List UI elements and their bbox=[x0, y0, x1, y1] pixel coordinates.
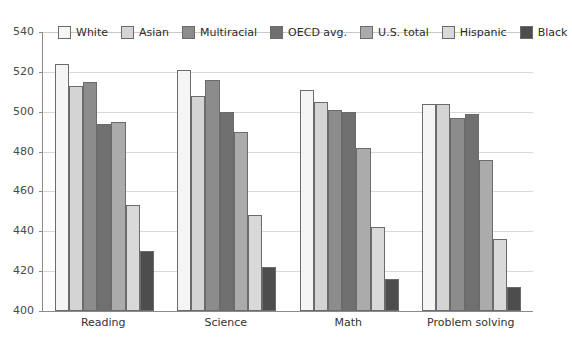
bar bbox=[479, 160, 493, 311]
bar bbox=[205, 80, 219, 311]
bar bbox=[97, 124, 111, 311]
bar bbox=[234, 132, 248, 311]
y-tick-mark-400 bbox=[39, 311, 43, 312]
bar bbox=[356, 148, 370, 311]
legend-swatch-icon bbox=[182, 26, 195, 39]
bar-group bbox=[288, 32, 411, 311]
legend-label: U.S. total bbox=[378, 27, 429, 38]
bar bbox=[126, 205, 140, 311]
bar-group bbox=[43, 32, 166, 311]
legend-swatch-icon bbox=[121, 26, 134, 39]
y-tick-label-440: 440 bbox=[13, 225, 34, 236]
legend-swatch-icon bbox=[520, 26, 533, 39]
legend-item[interactable]: Asian bbox=[121, 26, 169, 39]
bar bbox=[493, 239, 507, 311]
x-axis-label: Math bbox=[287, 317, 410, 328]
y-tick-label-500: 500 bbox=[13, 106, 34, 117]
bar bbox=[55, 64, 69, 311]
legend-item[interactable]: Hispanic bbox=[442, 26, 507, 39]
bar bbox=[314, 102, 328, 311]
bar bbox=[385, 279, 399, 311]
legend-label: OECD avg. bbox=[288, 27, 347, 38]
chart-legend: WhiteAsianMultiracialOECD avg.U.S. total… bbox=[58, 26, 572, 39]
bar bbox=[220, 112, 234, 311]
legend-label: Hispanic bbox=[460, 27, 507, 38]
bar bbox=[300, 90, 314, 311]
legend-item[interactable]: Multiracial bbox=[182, 26, 257, 39]
bar bbox=[140, 251, 154, 311]
legend-label: White bbox=[76, 27, 108, 38]
bar bbox=[342, 112, 356, 311]
y-tick-label-520: 520 bbox=[13, 66, 34, 77]
legend-item[interactable]: U.S. total bbox=[360, 26, 429, 39]
bar bbox=[465, 114, 479, 311]
legend-swatch-icon bbox=[442, 26, 455, 39]
bar bbox=[371, 227, 385, 311]
y-tick-label-540: 540 bbox=[13, 26, 34, 37]
bar bbox=[436, 104, 450, 311]
x-axis-label: Science bbox=[165, 317, 288, 328]
bar bbox=[177, 70, 191, 311]
y-tick-label-480: 480 bbox=[13, 146, 34, 157]
bar bbox=[422, 104, 436, 311]
y-axis-labels: 400420440460480500520540 bbox=[0, 0, 38, 344]
bar bbox=[328, 110, 342, 311]
legend-label: Black bbox=[538, 27, 568, 38]
x-axis-label: Reading bbox=[42, 317, 165, 328]
legend-label: Asian bbox=[139, 27, 169, 38]
bar bbox=[248, 215, 262, 311]
legend-item[interactable]: White bbox=[58, 26, 108, 39]
legend-item[interactable]: Black bbox=[520, 26, 568, 39]
legend-swatch-icon bbox=[58, 26, 71, 39]
plot-area bbox=[42, 32, 533, 312]
y-tick-label-420: 420 bbox=[13, 265, 34, 276]
legend-swatch-icon bbox=[360, 26, 373, 39]
bar bbox=[262, 267, 276, 311]
bar bbox=[69, 86, 83, 311]
bar bbox=[111, 122, 125, 311]
legend-label: Multiracial bbox=[200, 27, 257, 38]
legend-item[interactable]: OECD avg. bbox=[270, 26, 347, 39]
bar bbox=[450, 118, 464, 311]
x-axis-label: Problem solving bbox=[410, 317, 533, 328]
bar bbox=[191, 96, 205, 311]
legend-swatch-icon bbox=[270, 26, 283, 39]
y-tick-label-460: 460 bbox=[13, 185, 34, 196]
bar-group bbox=[166, 32, 289, 311]
bar bbox=[83, 82, 97, 311]
bar-group bbox=[411, 32, 534, 311]
bar bbox=[507, 287, 521, 311]
y-tick-label-400: 400 bbox=[13, 305, 34, 316]
